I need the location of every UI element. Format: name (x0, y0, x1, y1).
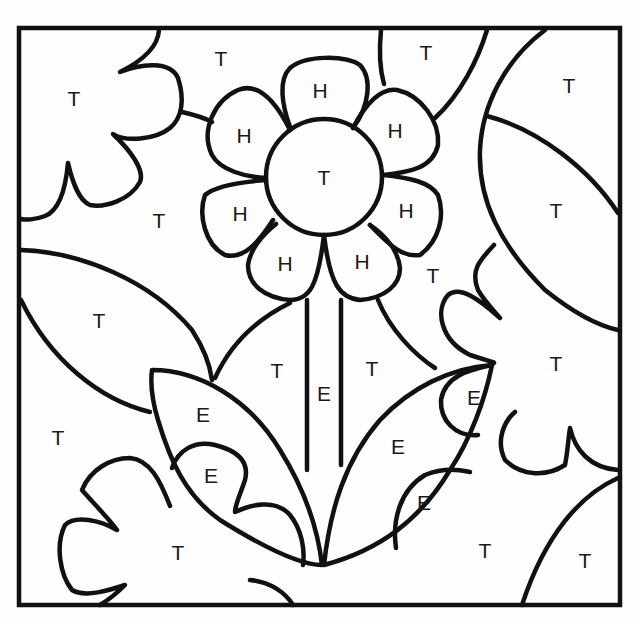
left-leaf-inner-lobe (172, 444, 304, 565)
label-petal-top: H (312, 80, 327, 101)
label-right-wavy-leaf: T (550, 353, 563, 374)
label-petal-top-left: H (236, 125, 251, 146)
label-bottom-center: T (479, 540, 492, 561)
top-right-leaf-left-edge (380, 30, 384, 84)
label-stem-left-region: T (271, 360, 284, 381)
label-left-leaf: T (93, 310, 106, 331)
right-wavy-leaf-bottom (501, 412, 618, 473)
label-petal-bottom-right: H (354, 251, 369, 272)
label-petal-top-right: H (387, 120, 402, 141)
bottom-right-arc (522, 478, 618, 605)
left-leaf-outline (151, 370, 322, 565)
label-left-leaf-upper: E (196, 404, 210, 425)
label-petal-right: H (398, 200, 413, 221)
right-big-leaf-outline (480, 30, 618, 330)
label-left-bottom: T (52, 427, 65, 448)
top-right-leaf-right-edge (435, 30, 487, 118)
label-petal-left: H (232, 203, 247, 224)
label-left-gap: T (153, 210, 166, 231)
right-wavy-leaf (441, 245, 500, 363)
right-leaf-small-lobe (395, 470, 470, 548)
label-flower-center: T (318, 167, 331, 188)
label-bottom-right: T (579, 550, 592, 571)
label-right-of-flower: T (427, 265, 440, 286)
label-left-leaf-lower: E (204, 465, 218, 486)
left-background-leaf-lower (21, 300, 150, 412)
bottom-left-wavy-leaf (60, 458, 170, 605)
label-stem: E (317, 383, 331, 404)
label-top-center: T (215, 48, 228, 69)
left-background-leaf (21, 250, 212, 380)
label-petal-bottom-left: H (277, 253, 292, 274)
label-bottom-left-leaf: T (172, 542, 185, 563)
branch-left (182, 112, 212, 122)
label-right-leaf-tip: E (467, 387, 481, 408)
label-right-leaf-main: E (391, 436, 405, 457)
stem-right-curve (378, 300, 435, 368)
label-right-leaf-small: E (417, 492, 431, 513)
top-left-leaf-outline (21, 30, 182, 220)
label-stem-right-region: T (366, 358, 379, 379)
coloring-page: T T T T T T T T T T T T T T T T H H H H … (0, 0, 640, 623)
label-right-lower-leaf: T (550, 200, 563, 221)
label-top-right-leaf: T (420, 42, 433, 63)
label-top-left-leaf: T (68, 88, 81, 109)
label-right-upper-leaf: T (563, 75, 576, 96)
bottom-left-wavy-leaf-edge (250, 580, 293, 605)
